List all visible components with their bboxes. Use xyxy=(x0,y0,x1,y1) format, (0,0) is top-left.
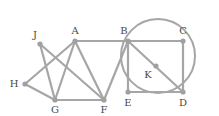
node-h-dot xyxy=(22,81,27,86)
edge-j-g xyxy=(40,44,55,100)
node-j-dot xyxy=(37,41,42,46)
edge-layer xyxy=(25,41,183,100)
node-k-dot xyxy=(153,63,158,68)
node-label-j: J xyxy=(33,30,37,40)
node-a-dot xyxy=(72,38,77,43)
node-c-dot xyxy=(180,38,185,43)
node-label-a: A xyxy=(71,26,78,36)
node-label-c: C xyxy=(179,26,187,36)
node-label-g: G xyxy=(51,105,59,115)
node-e-dot xyxy=(125,89,130,94)
node-g-dot xyxy=(52,97,57,102)
node-label-f: F xyxy=(101,105,108,115)
node-label-k: K xyxy=(144,70,151,80)
graph-diagram: ABCDEFGHJK xyxy=(0,0,219,116)
node-f-dot xyxy=(101,97,106,102)
node-d-dot xyxy=(180,89,185,94)
node-label-e: E xyxy=(124,98,131,108)
node-label-h: H xyxy=(10,79,19,89)
node-label-d: D xyxy=(179,98,187,108)
node-b-dot xyxy=(125,38,130,43)
edge-a-f xyxy=(75,41,104,100)
node-label-b: B xyxy=(120,26,127,36)
